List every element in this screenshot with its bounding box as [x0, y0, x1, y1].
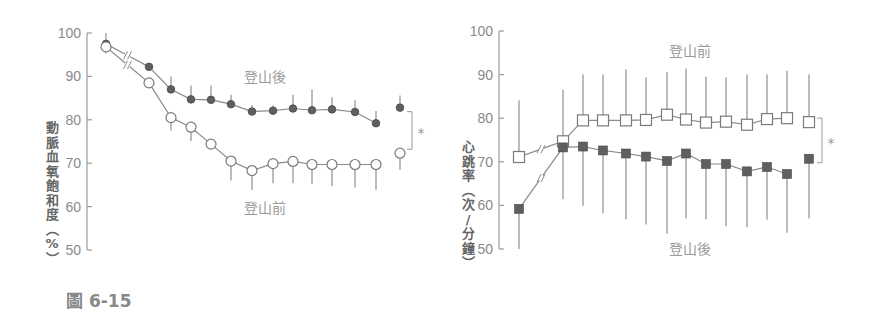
significance-bracket	[817, 118, 822, 163]
y-tick-label: 100	[58, 25, 82, 41]
data-point-filled-circle	[372, 119, 380, 127]
series-label-pre-climb: 登山前	[244, 200, 286, 216]
y-tick-label: 70	[477, 154, 493, 170]
y-tick-label: 100	[470, 23, 494, 39]
data-point-filled-square	[599, 146, 608, 155]
data-point-filled-square	[579, 142, 588, 151]
series-line	[563, 115, 787, 142]
data-point-filled-circle	[396, 104, 404, 112]
y-axis-label-char: 鐘	[462, 241, 475, 256]
y-axis-label-char: ︶	[45, 251, 59, 266]
data-point-open-square	[721, 116, 732, 127]
data-point-open-square	[681, 114, 692, 125]
figure-svg: 5060708090100動脈血氧飽和度︵%︶*登山後登山前 506070809…	[0, 0, 873, 316]
data-point-open-circle	[101, 42, 111, 52]
data-point-open-circle	[268, 159, 278, 169]
data-point-open-circle	[371, 160, 381, 170]
data-point-filled-square	[702, 159, 711, 168]
significance-asterisk: *	[418, 125, 425, 141]
data-point-open-circle	[226, 156, 236, 166]
data-point-open-square	[701, 117, 712, 128]
data-point-filled-square	[642, 152, 651, 161]
data-point-open-circle	[166, 113, 176, 123]
y-axis-label-char: 次	[462, 197, 475, 212]
y-axis-label-char: %	[45, 236, 58, 251]
y-axis-label-char: ︵	[45, 222, 59, 237]
data-point-open-square	[578, 115, 589, 126]
data-point-filled-circle	[207, 96, 215, 104]
axis-break-mark	[541, 145, 545, 153]
data-point-open-circle	[350, 160, 360, 170]
series-label-pre-climb: 登山前	[669, 43, 711, 59]
data-point-filled-square	[682, 149, 691, 158]
data-point-filled-circle	[308, 106, 316, 114]
data-point-filled-square	[515, 204, 524, 213]
data-point-open-square	[742, 119, 753, 130]
y-axis-label-char: 度	[46, 207, 60, 222]
y-tick-label: 60	[477, 197, 493, 213]
data-point-filled-circle	[351, 108, 359, 116]
y-axis-label-char: 分	[462, 226, 475, 241]
axis-break-mark	[124, 51, 128, 59]
y-axis-label-char: 跳	[462, 154, 475, 169]
y-tick-label: 70	[65, 155, 81, 171]
data-point-filled-square	[743, 167, 752, 176]
series-label-post-climb: 登山後	[669, 241, 711, 257]
data-point-filled-square	[622, 149, 631, 158]
y-axis-label-char: ︵	[461, 183, 475, 198]
data-point-filled-square	[783, 170, 792, 179]
y-axis-label-char: 飽	[45, 178, 59, 193]
significance-bracket	[407, 112, 412, 150]
data-point-filled-circle	[248, 108, 256, 116]
data-point-filled-square	[663, 156, 672, 165]
data-point-open-square	[762, 114, 773, 125]
data-point-open-circle	[395, 148, 405, 158]
data-point-filled-circle	[145, 63, 153, 71]
data-point-filled-square	[722, 159, 731, 168]
data-point-open-square	[782, 113, 793, 124]
y-tick-label: 80	[477, 110, 493, 126]
y-tick-label: 90	[65, 68, 81, 84]
y-axis-label-char: 血	[46, 149, 59, 164]
data-point-filled-circle	[227, 100, 235, 108]
data-point-filled-square	[805, 154, 814, 163]
left-chart-spo2: 5060708090100動脈血氧飽和度︵%︶*登山後登山前	[45, 25, 425, 266]
data-point-open-square	[621, 115, 632, 126]
data-point-open-circle	[288, 156, 298, 166]
y-tick-label: 60	[65, 199, 81, 215]
y-axis-label-char: /	[466, 212, 471, 227]
data-point-filled-circle	[187, 96, 195, 104]
data-point-open-square	[514, 152, 525, 163]
data-point-filled-circle	[167, 86, 175, 94]
data-point-open-square	[804, 117, 815, 128]
data-point-open-circle	[206, 139, 216, 149]
data-point-open-circle	[327, 160, 337, 170]
y-axis-label-char: 和	[46, 193, 59, 208]
data-point-filled-square	[559, 143, 568, 152]
data-point-filled-square	[763, 163, 772, 172]
axis-break-mark	[537, 145, 541, 153]
data-point-open-circle	[307, 160, 317, 170]
data-point-filled-circle	[328, 106, 336, 114]
y-axis-label-char: ︶	[461, 255, 475, 270]
data-point-open-circle	[247, 166, 257, 176]
y-axis-label-char: 脈	[46, 135, 59, 150]
y-axis-label-char: 氧	[45, 164, 59, 179]
y-tick-label: 80	[65, 112, 81, 128]
data-point-open-square	[662, 109, 673, 120]
y-axis-label-char: 心	[462, 139, 475, 154]
data-point-open-circle	[144, 78, 154, 88]
figure-caption: 圖 6-15	[66, 287, 131, 312]
y-tick-label: 50	[65, 242, 81, 258]
series-line	[563, 147, 787, 174]
data-point-open-square	[641, 114, 652, 125]
y-tick-label: 50	[477, 241, 493, 257]
y-axis-label-char: 動	[46, 120, 59, 135]
data-point-filled-circle	[269, 107, 277, 115]
right-chart-heart-rate: 5060708090100心跳率︵次/分鐘︶*登山前登山後	[461, 23, 835, 270]
y-axis-label-char: 率	[462, 168, 475, 183]
series-label-post-climb: 登山後	[244, 69, 286, 85]
axis-break-mark	[128, 51, 132, 59]
data-point-open-circle	[186, 122, 196, 132]
y-tick-label: 90	[477, 67, 493, 83]
